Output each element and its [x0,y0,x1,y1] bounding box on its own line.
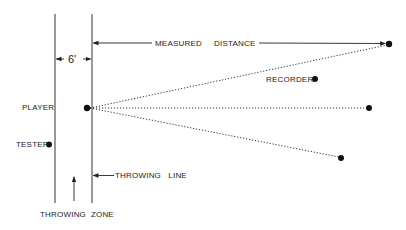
measured-distance-arrow-right [259,43,385,44]
landing-dot-middle [366,105,372,111]
throwing-field-diagram: 6' MEASURED DISTANCE PLAYER RECORDER TES… [0,0,406,230]
player-dot [84,105,90,111]
landing-dot-lower [338,155,344,161]
recorder-label: RECORDER [266,75,313,84]
throw-path-lower [90,108,339,157]
measured-label: MEASURED [155,39,202,48]
throwing-zone-label: THROWING ZONE [40,210,114,219]
distance-label: DISTANCE [214,39,255,48]
tester-label: TESTER [16,140,49,149]
zone-width-label: 6' [68,53,76,65]
throw-path-upper [90,45,387,108]
landing-dot-upper [386,41,392,47]
player-label: PLAYER [22,103,54,112]
throwing-line-label: THROWING LINE [115,171,187,180]
